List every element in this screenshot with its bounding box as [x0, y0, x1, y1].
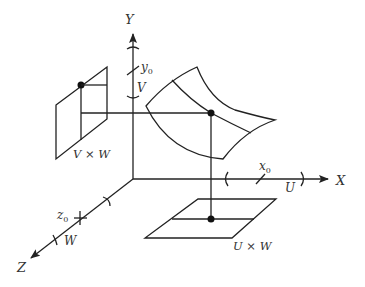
u-interval-label: U	[285, 181, 296, 195]
z-axis-label: Z	[16, 260, 27, 275]
surface-point	[208, 110, 215, 117]
uw-plane-label: U × W	[233, 239, 273, 253]
z0-label: z0	[56, 208, 68, 224]
y-axis-label: Y	[125, 12, 135, 27]
x0-label: x0	[259, 159, 271, 175]
v-interval-label: V	[137, 81, 147, 95]
y0-label: y0	[140, 60, 153, 76]
x-axis-label: X	[335, 173, 346, 188]
w-interval-label: W	[64, 234, 78, 248]
diagram-canvas: Y X Z y0 V x0 U z0 W V × W U × W	[0, 0, 365, 287]
uw-point	[208, 216, 215, 223]
vw-plane-label: V × W	[73, 147, 111, 161]
